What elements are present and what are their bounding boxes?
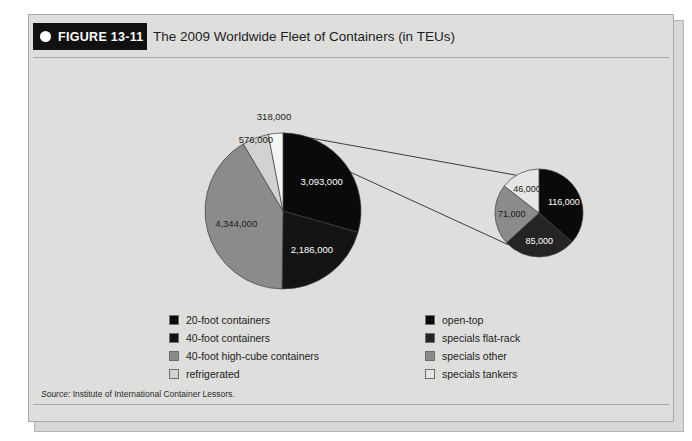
chart-legends: 20-foot containers 40-foot containers 40… [29,311,673,385]
legend-label: refrigerated [186,368,240,380]
legend-item[interactable]: 40-foot containers [169,329,319,346]
pie-slice-label: 576,000 [239,134,273,145]
figure-number-label: FIGURE 13-11 [58,30,144,44]
legend-swatch-refrigerated [169,369,179,379]
legend-swatch-40-foot-high-cube-containers [169,351,179,361]
legend-label: specials flat-rack [442,332,520,344]
legend-label: 40-foot high-cube containers [186,350,319,362]
pie-slice-label: 71,000 [498,209,526,219]
bullet-icon [40,31,51,42]
page-title: The 2009 Worldwide Fleet of Containers (… [153,23,667,50]
figure-panel: FIGURE 13-11 The 2009 Worldwide Fleet of… [28,14,674,422]
legend-item[interactable]: specials other [425,347,520,364]
legend-swatch-specials-other [425,351,435,361]
legend-swatch-40-foot-containers [169,333,179,343]
legend-label: 20-foot containers [186,314,270,326]
source-divider [33,404,669,405]
legend-item[interactable]: refrigerated [169,365,319,382]
chart-plot-area: 3,093,0002,186,0004,344,000576,000318,00… [29,59,673,313]
pie-slice-label: 3,093,000 [300,176,342,187]
pie-slice-label: 318,000 [257,111,291,122]
figure-page: FIGURE 13-11 The 2009 Worldwide Fleet of… [0,0,692,441]
legend-swatch-open-top [425,315,435,325]
pie-chart-svg: 3,093,0002,186,0004,344,000576,000318,00… [29,59,675,313]
legend-specials: open-top specials flat-rack specials oth… [425,311,520,383]
legend-swatch-specials-flat-rack [425,333,435,343]
source-text: Institute of International Container Les… [70,389,234,399]
legend-item[interactable]: open-top [425,311,520,328]
pie-slice-label: 46,000 [513,184,541,194]
legend-label: specials other [442,350,507,362]
legend-item[interactable]: 20-foot containers [169,311,319,328]
legend-label: 40-foot containers [186,332,270,344]
legend-item[interactable]: specials flat-rack [425,329,520,346]
legend-label: open-top [442,314,483,326]
source-label: Source: [41,389,70,399]
header-divider [33,57,669,58]
pie-slice-label: 85,000 [526,236,554,246]
legend-swatch-specials-tankers [425,369,435,379]
pie-slice-label: 4,344,000 [215,218,257,229]
figure-number-tab: FIGURE 13-11 [33,23,147,50]
pie-slice-label: 116,000 [548,197,580,207]
legend-item[interactable]: specials tankers [425,365,520,382]
figure-header: FIGURE 13-11 The 2009 Worldwide Fleet of… [29,15,673,59]
legend-swatch-20-foot-containers [169,315,179,325]
legend-item[interactable]: 40-foot high-cube containers [169,347,319,364]
legend-main: 20-foot containers 40-foot containers 40… [169,311,319,383]
main-pie [205,133,361,289]
pie-slice-label: 2,186,000 [291,244,333,255]
legend-label: specials tankers [442,368,517,380]
source-note: Source: Institute of International Conta… [41,389,235,399]
